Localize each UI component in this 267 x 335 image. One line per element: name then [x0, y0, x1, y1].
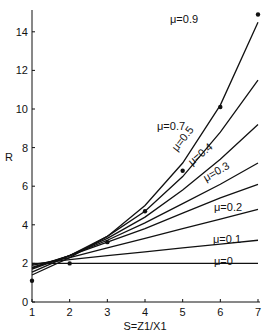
data-point — [105, 240, 109, 244]
curve-label: μ=0.4 — [186, 140, 215, 167]
x-tick-label: 7 — [255, 306, 261, 318]
chart: 123456702468101214S=Z1/X1R μ=0μ=0.1μ=0.2… — [0, 0, 267, 335]
curve-label: μ=0.1 — [213, 233, 241, 245]
y-tick-label: 0 — [22, 296, 28, 308]
curve-label: μ=0 — [214, 255, 233, 267]
curve-label: μ=0.9 — [170, 13, 198, 25]
curve-label: μ=0.2 — [214, 201, 242, 213]
data-point — [180, 169, 184, 173]
data-point — [30, 279, 34, 283]
data-point — [143, 209, 147, 213]
y-tick-label: 14 — [16, 26, 28, 38]
y-tick-label: 2 — [22, 257, 28, 269]
data-point — [256, 12, 260, 16]
y-tick-label: 8 — [22, 142, 28, 154]
x-tick-label: 6 — [217, 306, 223, 318]
curve-label: μ=0.7 — [157, 120, 185, 132]
y-tick-label: 10 — [16, 103, 28, 115]
curve-labels: μ=0μ=0.1μ=0.2μ=0.3μ=0.4μ=0.5μ=0.7μ=0.9 — [157, 13, 242, 267]
x-tick-label: 2 — [67, 306, 73, 318]
data-point — [67, 261, 71, 265]
x-tick-label: 1 — [29, 306, 35, 318]
y-tick-label: 4 — [22, 219, 28, 231]
y-tick-label: 6 — [22, 180, 28, 192]
x-tick-label: 3 — [104, 306, 110, 318]
data-point — [218, 105, 222, 109]
x-tick-label: 5 — [180, 306, 186, 318]
y-tick-label: 12 — [16, 64, 28, 76]
y-axis-label: R — [5, 151, 13, 163]
x-tick-label: 4 — [142, 306, 148, 318]
x-axis-label: S=Z1/X1 — [123, 320, 166, 332]
